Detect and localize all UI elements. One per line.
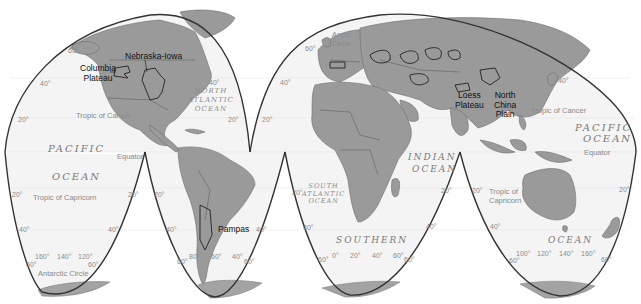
label-tropic-capricorn-east: Tropic of Capricorn [489,188,522,204]
lat-s60-h: 60° [601,256,612,263]
lat-s40-a: 40° [19,226,30,233]
south-atlantic-line3: OCEAN [302,198,345,205]
label-ncp-line3: Plain [494,110,516,119]
label-tropic-cancer-west: Tropic of Cancer [76,112,131,120]
lat-n40-atl: 40° [209,79,220,86]
lat-n40-left: 40° [40,80,51,87]
label-arctic-circle: Arctic Circle [332,31,351,47]
lon-lobe2-1: 60° [211,253,222,260]
lat-s20-f: 20° [472,187,483,194]
lat-s20-a: 20° [12,191,23,198]
label-pampas: Pampas [218,225,249,234]
label-north-atlantic: NORTH ATLANTIC OCEAN [188,88,234,113]
lat-s60-a: 60° [26,261,37,268]
lon-lobe2-2: 40° [232,253,243,260]
lat-s40-g: 40° [490,223,501,230]
label-north-china-plain: North China Plain [494,91,516,119]
label-ncp-line1: North [494,91,516,100]
lat-s20-b: 20° [128,191,139,198]
lon-lobe2-0: 80° [189,253,200,260]
label-pacific-west-2: OCEAN [52,172,101,182]
lat-s40-b: 40° [108,226,119,233]
lat-s60-d: 60° [244,258,255,265]
lon-lobe4-3: 160° [581,250,595,257]
label-antarctic-circle: Antarctic Circle [38,270,88,278]
label-southern-ocean: OCEAN [548,236,593,245]
lon-lobe3-3: 60° [393,252,404,259]
lat-s40-e: 40° [303,224,314,231]
lon-lobe1-1: 140° [57,253,71,260]
lat-n60-left: 60° [68,47,79,54]
lat-s20-c: 20° [154,191,165,198]
lat-s20-e: 20° [441,187,452,194]
arctic-circle-line2: Circle [332,40,351,48]
label-equator-east: Equator [584,149,610,157]
lat-s60-b: 60° [88,261,99,268]
lat-s60-f: 60° [404,256,415,263]
lat-n20-atl: 20° [228,116,239,123]
south-atlantic-line1: SOUTH [302,183,345,190]
lat-n40-eur: 40° [280,79,291,86]
tropic-capricorn-east-line2: Capricorn [489,197,522,205]
label-loess-line2: Plateau [455,101,484,110]
label-pacific-east-2: OCEAN [583,134,632,144]
lon-lobe4-1: 120° [537,250,551,257]
label-equator-west: Equator [117,153,143,161]
lat-n40-pac: 40° [558,77,569,84]
label-tropic-capricorn-west: Tropic of Capricorn [33,194,97,202]
label-southern: SOUTHERN [336,236,408,245]
lon-lobe1-2: 120° [78,253,92,260]
lat-s20-d: 20° [292,189,303,196]
label-columbia-plateau: Columbia Plateau [80,64,116,82]
label-indian-2: OCEAN [412,165,457,174]
label-ncp-line2: China [494,101,516,110]
lat-s60-c: 60° [177,258,188,265]
north-atlantic-line2: ATLANTIC [188,97,234,104]
label-tropic-cancer-east: Tropic of Cancer [531,107,586,115]
label-loess-line1: Loess [455,91,484,100]
lat-s40-c: 40° [166,226,177,233]
lon-lobe4-2: 140° [559,250,573,257]
label-nebraska-iowa: Nebraska-Iowa [125,52,182,61]
lat-s40-f: 40° [426,223,437,230]
label-columbia-plateau-line2: Plateau [80,74,116,83]
lat-s60-e: 60° [318,256,329,263]
lon-lobe1-0: 160° [35,253,49,260]
label-pacific-west-1: PACIFIC [48,144,105,154]
tropic-capricorn-east-line1: Tropic of [489,188,522,196]
lat-s60-g: 60° [509,257,520,264]
label-south-atlantic: SOUTH ATLANTIC OCEAN [302,183,345,205]
north-atlantic-line3: OCEAN [188,106,234,113]
north-atlantic-line1: NORTH [188,88,234,95]
lat-n20-left: 20° [18,116,29,123]
lat-s40-d: 40° [256,226,267,233]
lat-n60-eur: 60° [305,45,316,52]
label-columbia-plateau-line1: Columbia [80,64,116,73]
label-loess-plateau: Loess Plateau [455,91,484,109]
arctic-circle-line1: Arctic [332,31,351,39]
label-indian-1: INDIAN [408,153,457,162]
lon-lobe3-0: 0° [332,252,339,259]
label-pacific-east-1: PACIFIC [575,123,632,133]
lon-lobe4-0: 100° [516,250,530,257]
lat-n20-eur: 20° [262,116,273,123]
lon-lobe3-2: 40° [372,252,383,259]
lon-lobe3-1: 20° [350,252,361,259]
lat-s20-g: 20° [619,186,630,193]
